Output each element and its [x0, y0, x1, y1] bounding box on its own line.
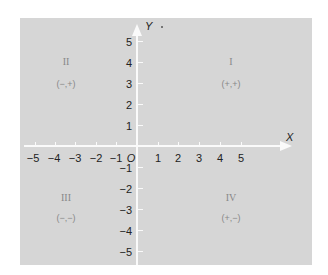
- y-tick: [138, 83, 143, 84]
- y-axis-label: Y: [145, 20, 152, 32]
- y-tick: [138, 167, 143, 168]
- quadrant-i-signs: (+,+): [206, 79, 256, 89]
- quadrant-ii-signs: (−,+): [41, 79, 91, 89]
- x-tick-label: 3: [189, 152, 209, 164]
- y-tick: [138, 104, 143, 105]
- y-tick-label: −5: [112, 246, 132, 258]
- x-tick: [220, 142, 221, 146]
- x-tick-label: −3: [65, 152, 85, 164]
- y-tick: [138, 62, 143, 63]
- quadrant-iii-label: III: [41, 192, 91, 203]
- y-tick: [138, 251, 143, 252]
- x-tick: [241, 142, 242, 146]
- y-tick: [138, 41, 143, 42]
- y-tick: [138, 230, 143, 231]
- x-tick: [116, 142, 117, 146]
- x-tick-label: 5: [231, 152, 251, 164]
- x-tick: [35, 142, 36, 146]
- quadrant-iii-signs: (−,−): [41, 213, 91, 223]
- stray-dot: [161, 26, 163, 28]
- x-tick-label: 2: [168, 152, 188, 164]
- quadrant-i-label: I: [206, 56, 256, 67]
- x-axis-label: X: [286, 131, 293, 143]
- x-tick: [158, 142, 159, 146]
- y-tick: [138, 188, 143, 189]
- y-tick-label: 2: [112, 99, 132, 111]
- x-tick-label: 1: [148, 152, 168, 164]
- y-tick-label: −4: [112, 225, 132, 237]
- x-tick: [178, 142, 179, 146]
- quadrant-iv-label: IV: [206, 192, 256, 203]
- x-tick: [55, 142, 56, 146]
- x-tick-label: 4: [210, 152, 230, 164]
- y-tick-label: 4: [112, 57, 132, 69]
- y-tick-label: −2: [112, 183, 132, 195]
- x-tick-label: −5: [23, 152, 43, 164]
- quadrant-iv-signs: (+,−): [206, 213, 256, 223]
- y-tick-label: 3: [112, 78, 132, 90]
- y-tick: [138, 125, 143, 126]
- x-tick-label: −2: [86, 152, 106, 164]
- y-tick-label: 5: [112, 36, 132, 48]
- x-tick: [75, 142, 76, 146]
- y-tick-label: −3: [112, 204, 132, 216]
- y-tick-label: −1: [112, 162, 132, 174]
- x-tick: [199, 142, 200, 146]
- y-tick-label: 1: [112, 120, 132, 132]
- x-tick-label: −4: [44, 152, 64, 164]
- y-axis-arrow-icon: [132, 24, 142, 36]
- quadrant-ii-label: II: [41, 56, 91, 67]
- x-tick: [96, 142, 97, 146]
- y-tick: [138, 209, 143, 210]
